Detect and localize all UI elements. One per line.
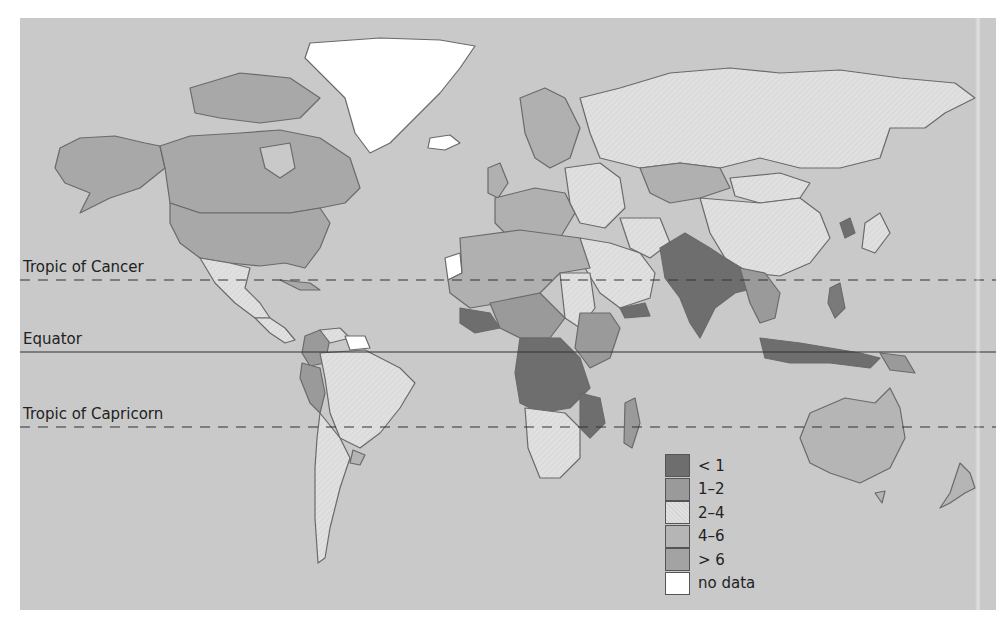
region-madagascar — [624, 398, 640, 448]
legend-item: > 6 — [665, 548, 755, 572]
region-mozambique — [580, 393, 605, 438]
region-southeast-asia — [740, 268, 780, 323]
region-tasmania — [875, 491, 885, 503]
region-philippines — [828, 283, 845, 318]
legend-swatch-1-2 — [665, 478, 690, 501]
region-east-africa — [575, 313, 620, 368]
region-guianas — [345, 336, 370, 350]
region-central-america — [255, 318, 295, 343]
map-legend: < 1 1–2 2–4 4–6 > 6 no data — [665, 454, 755, 595]
legend-swatch-4-6 — [665, 525, 690, 548]
region-cuba — [280, 280, 320, 290]
region-japan — [862, 213, 890, 253]
legend-label: 1–2 — [698, 480, 725, 498]
legend-swatch-lt1 — [665, 454, 690, 477]
map-canvas — [20, 18, 996, 610]
legend-label: > 6 — [698, 551, 725, 569]
legend-swatch-no-data — [665, 572, 690, 595]
tropic-of-cancer-label: Tropic of Cancer — [23, 258, 144, 276]
legend-item: < 1 — [665, 454, 755, 478]
legend-label: 4–6 — [698, 527, 725, 545]
legend-item: 1–2 — [665, 478, 755, 502]
cropped-header — [0, 0, 1006, 18]
tropic-of-capricorn-label: Tropic of Capricorn — [23, 405, 163, 423]
region-southern-africa — [525, 408, 580, 478]
region-usa — [170, 203, 330, 268]
legend-item: 2–4 — [665, 501, 755, 525]
region-mexico — [200, 258, 270, 318]
region-png — [880, 353, 915, 373]
region-indonesia — [760, 338, 880, 368]
region-australia — [800, 388, 905, 483]
legend-swatch-gt6 — [665, 548, 690, 571]
equator-label: Equator — [23, 330, 82, 348]
region-peru — [300, 363, 325, 413]
legend-item: no data — [665, 572, 755, 596]
legend-swatch-2-4 — [665, 501, 690, 524]
region-canada — [160, 130, 360, 213]
region-eastern-europe — [565, 163, 625, 228]
legend-label: no data — [698, 574, 755, 592]
region-scandinavia — [520, 88, 580, 168]
legend-label: < 1 — [698, 457, 725, 475]
region-iceland — [428, 135, 460, 150]
world-map: Tropic of Cancer Equator Tropic of Capri… — [20, 18, 996, 610]
region-canada-islands — [190, 73, 320, 123]
legend-item: 4–6 — [665, 525, 755, 549]
region-russia — [580, 68, 975, 168]
legend-label: 2–4 — [698, 504, 725, 522]
region-north-korea — [840, 218, 855, 238]
page-margin-bottom — [0, 610, 1006, 625]
region-new-zealand — [940, 463, 975, 508]
page-fold-highlight — [975, 18, 981, 610]
region-alaska — [55, 136, 165, 213]
region-kazakhstan — [640, 163, 730, 203]
region-uk — [488, 163, 508, 198]
region-uruguay — [350, 450, 365, 465]
